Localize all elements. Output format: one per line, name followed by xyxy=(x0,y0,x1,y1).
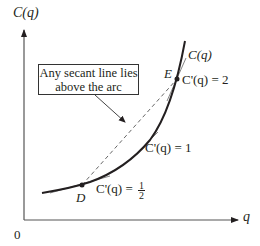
y-axis-label: C(q) xyxy=(13,6,39,20)
slope-e-label: C'(q) = 2 xyxy=(182,73,229,86)
origin-label: 0 xyxy=(14,228,21,241)
x-axis-label: q xyxy=(243,210,250,224)
annotation-line-2: above the arc xyxy=(39,80,138,94)
point-d xyxy=(80,183,85,188)
slope-d-prefix: C'(q) = xyxy=(96,181,136,196)
point-d-label: D xyxy=(76,191,85,204)
annotation-line-1: Any secant line lies xyxy=(39,66,138,80)
slope-d-fraction: 12 xyxy=(138,181,145,200)
point-e-label: E xyxy=(164,67,172,80)
slope-mid-label: C'(q) = 1 xyxy=(145,141,192,154)
annotation-box: Any secant line lies above the arc xyxy=(38,64,139,95)
slope-d-label: C'(q) = 12 xyxy=(96,181,145,200)
point-e xyxy=(175,77,180,82)
curve-label: C(q) xyxy=(188,48,212,61)
diagram-canvas xyxy=(0,0,260,246)
annotation-arrow xyxy=(95,95,125,122)
fraction-denominator: 2 xyxy=(138,191,145,200)
